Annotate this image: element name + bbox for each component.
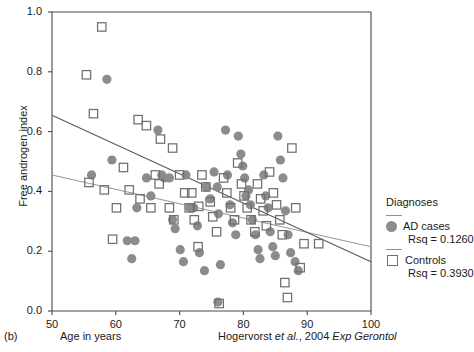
legend-rsq-controls: Rsq = 0.3930 <box>408 267 470 279</box>
data-point-ad-case <box>264 203 273 212</box>
data-point-control <box>300 240 308 248</box>
data-point-ad-case <box>268 242 277 251</box>
data-point-control <box>165 204 173 212</box>
data-point-ad-case <box>273 131 282 140</box>
data-point-control <box>253 180 261 188</box>
legend-item-ad-cases[interactable]: AD cases <box>386 220 470 232</box>
legend-label-ad-cases: AD cases <box>403 220 450 232</box>
data-point-ad-case <box>253 245 262 254</box>
data-point-ad-case <box>259 170 268 179</box>
data-point-ad-case <box>142 173 151 182</box>
legend-divider-2 <box>386 249 402 250</box>
data-point-control <box>112 204 120 212</box>
data-point-ad-case <box>193 221 202 230</box>
data-point-ad-case <box>127 254 136 263</box>
y-axis-tick-label: 0.2 <box>16 244 42 256</box>
y-axis-tick-label: 0.0 <box>16 304 42 316</box>
data-point-control <box>212 228 220 236</box>
data-point-ad-case <box>234 131 243 140</box>
x-axis-title: Age in years <box>60 330 121 342</box>
data-point-ad-case <box>294 266 303 275</box>
data-point-control <box>156 135 164 143</box>
open-square-marker-icon <box>387 255 398 266</box>
data-point-ad-case <box>107 155 116 164</box>
legend: Diagnoses AD cases Rsq = 0.1260 Controls… <box>386 196 470 283</box>
x-axis-tick-label: 90 <box>292 318 322 330</box>
data-point-ad-case <box>209 167 218 176</box>
data-point-ad-case <box>216 260 225 269</box>
data-point-control <box>272 201 280 209</box>
data-point-ad-case <box>146 191 155 200</box>
data-point-control <box>142 121 150 129</box>
data-point-ad-case <box>276 155 285 164</box>
x-axis-tick-label: 80 <box>228 318 258 330</box>
data-point-ad-case <box>281 206 290 215</box>
data-point-ad-case <box>181 170 190 179</box>
data-point-control <box>269 189 277 197</box>
data-point-ad-case <box>165 173 174 182</box>
data-point-ad-case <box>231 230 240 239</box>
x-axis-tick-label: 50 <box>37 318 67 330</box>
data-point-control <box>292 204 300 212</box>
data-point-ad-case <box>200 266 209 275</box>
data-point-ad-case <box>278 173 287 182</box>
data-point-control <box>89 109 97 117</box>
data-point-control <box>82 71 90 79</box>
data-point-ad-case <box>123 236 132 245</box>
legend-item-controls[interactable]: Controls <box>386 254 470 266</box>
data-point-control <box>283 293 291 301</box>
figure-citation: Hogervorst et al., 2004 Exp Gerontol <box>218 330 397 342</box>
legend-title: Diagnoses <box>386 196 470 208</box>
data-point-ad-case <box>238 161 247 170</box>
data-point-ad-case <box>221 126 230 135</box>
data-point-ad-case <box>236 149 245 158</box>
data-point-control <box>119 163 127 171</box>
citation-author: Hogervorst <box>218 330 275 342</box>
data-point-control <box>198 171 206 179</box>
data-point-ad-case <box>132 203 141 212</box>
data-point-ad-case <box>290 257 299 266</box>
y-axis-tick-label: 0.4 <box>16 184 42 196</box>
data-point-ad-case <box>240 173 249 182</box>
x-axis-tick-label: 70 <box>165 318 195 330</box>
data-point-ad-case <box>171 224 180 233</box>
citation-year: , 2004 <box>299 330 333 342</box>
plot-frame <box>52 12 371 311</box>
data-point-control <box>288 144 296 152</box>
y-axis-title: Free androgen index <box>17 86 29 226</box>
citation-etal: et al. <box>275 330 299 342</box>
data-point-ad-case <box>246 200 255 209</box>
data-point-ad-case <box>255 254 264 263</box>
x-axis-tick-label: 60 <box>101 318 131 330</box>
y-axis-tick-label: 1.0 <box>16 5 42 17</box>
data-point-ad-case <box>214 209 223 218</box>
data-point-control <box>314 240 322 248</box>
series-controls <box>82 23 323 308</box>
data-point-ad-case <box>286 248 295 257</box>
filled-circle-marker-icon <box>386 221 397 232</box>
data-point-ad-case <box>153 126 162 135</box>
data-point-ad-case <box>228 218 237 227</box>
legend-rsq-ad-cases: Rsq = 0.1260 <box>408 233 470 245</box>
citation-journal: Exp Gerontol <box>332 330 396 342</box>
data-point-ad-case <box>213 182 222 191</box>
data-point-control <box>108 235 116 243</box>
data-point-ad-case <box>271 251 280 260</box>
x-axis-tick-label: 100 <box>356 318 386 330</box>
data-point-ad-case <box>179 257 188 266</box>
data-point-control <box>134 115 142 123</box>
y-axis-tick-label: 0.8 <box>16 65 42 77</box>
panel-label: (b) <box>4 330 17 342</box>
data-point-control <box>98 23 106 31</box>
data-point-control <box>147 204 155 212</box>
legend-divider-1 <box>386 215 402 216</box>
data-point-control <box>281 278 289 286</box>
y-axis-tick-label: 0.6 <box>16 125 42 137</box>
data-point-control <box>168 144 176 152</box>
data-point-ad-case <box>206 194 215 203</box>
data-point-ad-case <box>176 245 185 254</box>
data-point-ad-case <box>102 75 111 84</box>
legend-label-controls: Controls <box>405 254 446 266</box>
